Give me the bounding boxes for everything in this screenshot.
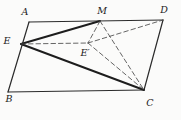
vertex-label-B: B xyxy=(5,93,13,104)
segment-Eprime-D xyxy=(88,20,163,43)
segment-E-M xyxy=(21,21,100,44)
vertex-label-M: M xyxy=(96,5,107,16)
geometry-figure: AMDEE′BC xyxy=(0,0,181,120)
segment-M-C xyxy=(100,21,144,90)
vertex-label-Eprime: E′ xyxy=(79,47,90,58)
vertex-label-D: D xyxy=(159,4,168,15)
segment-B-A xyxy=(8,22,29,92)
vertex-label-A: A xyxy=(21,6,29,17)
segment-Eprime-C xyxy=(88,43,144,90)
parallelogram-diagram: AMDEE′BC xyxy=(0,0,181,120)
segment-C-B xyxy=(8,90,144,92)
vertex-label-C: C xyxy=(146,97,154,108)
vertex-label-E: E xyxy=(3,35,11,46)
segment-D-C xyxy=(144,20,163,90)
segment-E-Eprime xyxy=(21,43,88,44)
